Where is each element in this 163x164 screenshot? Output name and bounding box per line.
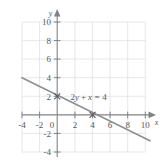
x-tick-label-4: 4 xyxy=(90,120,95,130)
equation-var-x: x xyxy=(87,92,92,102)
x-axis xyxy=(22,112,156,119)
equation-rhs: 4 xyxy=(102,92,107,102)
graph-figure: 10 8 6 4 2 -2 -4 -4 -2 2 4 6 8 10 0 y x … xyxy=(0,0,163,164)
y-axis xyxy=(54,9,61,157)
origin-label: 0 xyxy=(50,120,55,130)
x-tick-label-neg2: -2 xyxy=(36,120,44,130)
y-tick-label-neg4: -4 xyxy=(44,147,52,157)
x-tick-label-10: 10 xyxy=(141,120,151,130)
equation-text: 2y+x=4 xyxy=(71,92,108,102)
equation-plus-sign: + xyxy=(81,92,86,102)
y-tick-label-4: 4 xyxy=(47,73,52,83)
y-axis-arrow-icon xyxy=(54,9,61,17)
plotted-line-series xyxy=(22,78,150,141)
x-tick-label-6: 6 xyxy=(108,120,113,130)
x-tick-labels: -4 -2 2 4 6 8 10 0 xyxy=(18,120,150,130)
x-axis-label: x xyxy=(154,118,159,127)
equation-equals-sign: = xyxy=(95,92,100,102)
y-tick-labels: 10 8 6 4 2 -2 -4 xyxy=(42,17,52,157)
x-tick-label-2: 2 xyxy=(73,120,78,130)
y-tick-label-6: 6 xyxy=(47,54,52,64)
equation-annotation: 2y+x=4 xyxy=(71,92,108,102)
y-tick-label-2: 2 xyxy=(47,92,52,102)
y-axis-label: y xyxy=(48,9,53,18)
y-tick-label-8: 8 xyxy=(47,36,52,46)
coordinate-plane-chart: 10 8 6 4 2 -2 -4 -4 -2 2 4 6 8 10 0 y x … xyxy=(0,0,163,164)
y-tick-label-neg2: -2 xyxy=(44,129,52,139)
x-tick-label-8: 8 xyxy=(125,120,130,130)
y-tick-label-10: 10 xyxy=(42,17,52,27)
equation-var-y: y xyxy=(74,92,79,102)
x-tick-label-neg4: -4 xyxy=(18,120,26,130)
